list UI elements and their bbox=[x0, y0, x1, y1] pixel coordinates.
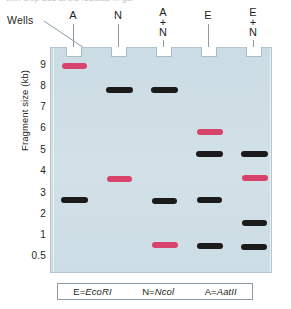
band-lane-e-3kb bbox=[197, 197, 222, 203]
gel-surface bbox=[51, 48, 271, 272]
band-lane-e-plus-n-1kb bbox=[241, 244, 267, 250]
gel-slab bbox=[50, 47, 272, 273]
band-lane-e-plus-n-2kb bbox=[242, 220, 267, 226]
lane-label-n: N bbox=[103, 10, 133, 20]
y-tick-8: 8 bbox=[2, 80, 46, 91]
y-axis-tick-column: 9 8 7 6 5 4 3 2 1 0.5 bbox=[0, 0, 46, 309]
well-lane-a-plus-n[interactable] bbox=[156, 47, 172, 57]
well-lane-n[interactable] bbox=[111, 47, 127, 57]
band-lane-n-4kb bbox=[107, 176, 132, 182]
well-lane-e[interactable] bbox=[201, 47, 217, 57]
lane-separator bbox=[53, 48, 54, 272]
lane-label-a-plus-n: A + N bbox=[148, 7, 178, 37]
y-tick-4: 4 bbox=[2, 165, 46, 176]
lane-label-e-plus-n: E + N bbox=[238, 7, 268, 37]
legend-enzyme-aatii: AatII bbox=[217, 286, 237, 297]
band-lane-a-plus-n-3kb bbox=[152, 198, 177, 204]
lane-label-e-line1: E bbox=[193, 10, 223, 20]
legend-item-a: A=AatII bbox=[205, 286, 237, 297]
enzyme-legend: E=EcoRI N=Ncol A=AatII bbox=[57, 283, 253, 300]
lane-label-a-line1: A bbox=[58, 10, 88, 20]
y-tick-1: 1 bbox=[2, 229, 46, 240]
band-lane-a-9kb bbox=[62, 63, 87, 69]
wells-callout-label: Wells bbox=[7, 14, 33, 26]
legend-enzyme-ncol: Ncol bbox=[155, 286, 174, 297]
legend-enzyme-ecori: EcoRI bbox=[85, 286, 111, 297]
y-tick-0-5: 0.5 bbox=[2, 250, 46, 261]
lane-label-e-plus-n-line3: N bbox=[238, 27, 268, 37]
lane-label-n-line1: N bbox=[103, 10, 133, 20]
leader-lane-e bbox=[208, 24, 209, 48]
y-tick-2: 2 bbox=[2, 208, 46, 219]
lane-label-e: E bbox=[193, 10, 223, 20]
band-lane-n-8kb bbox=[106, 87, 133, 93]
legend-item-e: E=EcoRI bbox=[73, 286, 111, 297]
y-tick-6: 6 bbox=[2, 122, 46, 133]
well-lane-a[interactable] bbox=[66, 47, 82, 57]
lane-label-a-plus-n-line3: N bbox=[148, 27, 178, 37]
band-lane-e-plus-n-4kb bbox=[242, 175, 268, 181]
y-tick-5: 5 bbox=[2, 144, 46, 155]
band-lane-a-3kb bbox=[61, 197, 88, 203]
band-lane-e-1kb bbox=[197, 243, 223, 249]
lane-separator bbox=[270, 48, 271, 272]
band-lane-e-6kb bbox=[197, 129, 223, 135]
leader-lane-n bbox=[118, 24, 119, 48]
well-lane-e-plus-n[interactable] bbox=[246, 47, 262, 57]
band-lane-a-plus-n-1kb bbox=[152, 242, 178, 248]
band-lane-e-plus-n-5kb bbox=[241, 151, 268, 157]
band-lane-a-plus-n-8kb bbox=[151, 87, 178, 93]
band-lane-e-5kb bbox=[196, 151, 223, 157]
lane-label-a: A bbox=[58, 10, 88, 20]
gel-figure: Fragment size (kb) 9 8 7 6 5 4 3 2 1 0.5… bbox=[0, 0, 291, 309]
y-tick-7: 7 bbox=[2, 101, 46, 112]
y-tick-3: 3 bbox=[2, 187, 46, 198]
legend-item-n: N=Ncol bbox=[142, 286, 174, 297]
y-tick-9: 9 bbox=[2, 59, 46, 70]
leader-lane-a bbox=[73, 24, 74, 48]
